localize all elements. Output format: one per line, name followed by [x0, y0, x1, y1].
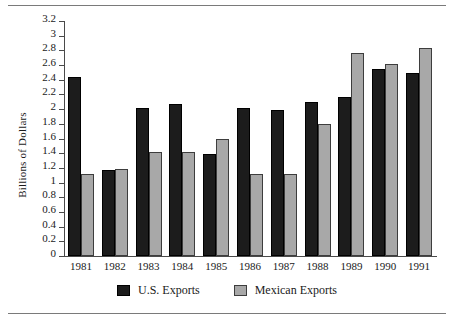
x-axis-labels: 1981198219831984198519861987198819891990… — [64, 260, 436, 273]
bar-group — [368, 21, 402, 256]
y-tick-label: 2.4 — [42, 72, 56, 83]
black-square-swatch-icon — [117, 285, 130, 296]
bar-us-exports — [372, 69, 385, 256]
bar-mexican-exports — [81, 174, 94, 256]
x-tick-label: 1984 — [165, 260, 199, 273]
bar-us-exports — [203, 154, 216, 256]
bar-group — [267, 21, 301, 256]
legend-label-mexican-exports: Mexican Exports — [255, 283, 337, 298]
bar-mexican-exports — [284, 174, 297, 256]
bar-mexican-exports — [250, 174, 263, 256]
bar-mexican-exports — [182, 152, 195, 256]
bar-group — [301, 21, 335, 256]
chart-figure: Billions of Dollars 3.232.82.62.42.221.8… — [0, 0, 454, 326]
bar-us-exports — [136, 108, 149, 256]
bar-mexican-exports — [385, 64, 398, 256]
legend-item-us-exports: U.S. Exports — [117, 283, 200, 298]
x-tick-label: 1988 — [301, 260, 335, 273]
x-tick-label: 1991 — [402, 260, 436, 273]
y-axis-title-text: Billions of Dollars — [16, 90, 28, 220]
x-tick-label: 1982 — [98, 260, 132, 273]
x-tick-label: 1985 — [199, 260, 233, 273]
bar-groups — [64, 21, 436, 256]
y-tick-label: 0.6 — [42, 204, 56, 215]
y-tick-label: 0.8 — [42, 189, 56, 200]
figure-top-rule — [8, 5, 446, 6]
y-tick-label: 2.6 — [42, 57, 56, 68]
y-tick-label: 1 — [51, 175, 57, 186]
y-tick-label: 1.2 — [42, 160, 56, 171]
bar-mexican-exports — [216, 139, 229, 256]
plot-area — [64, 21, 436, 256]
gray-square-swatch-icon — [234, 285, 247, 296]
y-axis-title: Billions of Dollars — [0, 0, 10, 90]
x-tick-label: 1986 — [233, 260, 267, 273]
bar-mexican-exports — [115, 169, 128, 256]
bar-mexican-exports — [149, 152, 162, 256]
figure-bottom-rule — [8, 313, 446, 314]
bar-us-exports — [68, 77, 81, 256]
y-tick-label: 1.6 — [42, 131, 56, 142]
bar-us-exports — [169, 104, 182, 256]
y-tick-label: 3 — [51, 28, 57, 39]
legend-item-mexican-exports: Mexican Exports — [234, 283, 337, 298]
bar-mexican-exports — [419, 48, 432, 256]
x-tick-label: 1983 — [132, 260, 166, 273]
chart-legend: U.S. Exports Mexican Exports — [0, 283, 454, 298]
y-tick-label: 2.2 — [42, 86, 56, 97]
bar-group — [199, 21, 233, 256]
bar-group — [165, 21, 199, 256]
y-tick-label: 2.8 — [42, 42, 56, 53]
bar-group — [402, 21, 436, 256]
legend-label-us-exports: U.S. Exports — [138, 283, 200, 298]
bar-group — [233, 21, 267, 256]
x-tick-label: 1990 — [368, 260, 402, 273]
bar-mexican-exports — [351, 53, 364, 256]
y-tick-label: 3.2 — [42, 13, 56, 24]
bar-us-exports — [305, 102, 318, 256]
y-tick-label: 0.2 — [42, 233, 56, 244]
bar-us-exports — [237, 108, 250, 256]
x-tick-label: 1987 — [267, 260, 301, 273]
bar-group — [98, 21, 132, 256]
bar-group — [64, 21, 98, 256]
bar-group — [335, 21, 369, 256]
y-tick-label: 2 — [51, 101, 57, 112]
x-tick-label: 1981 — [64, 260, 98, 273]
x-axis-line — [64, 256, 437, 257]
bar-mexican-exports — [318, 124, 331, 256]
y-tick-label: 0 — [51, 248, 57, 259]
bar-group — [132, 21, 166, 256]
y-tick-label: 1.4 — [42, 145, 56, 156]
bar-us-exports — [338, 97, 351, 256]
bar-us-exports — [406, 73, 419, 256]
y-tick-label: 1.8 — [42, 116, 56, 127]
bar-us-exports — [102, 170, 115, 256]
y-tick-label: 0.4 — [42, 219, 56, 230]
x-tick-label: 1989 — [335, 260, 369, 273]
bar-us-exports — [271, 110, 284, 256]
